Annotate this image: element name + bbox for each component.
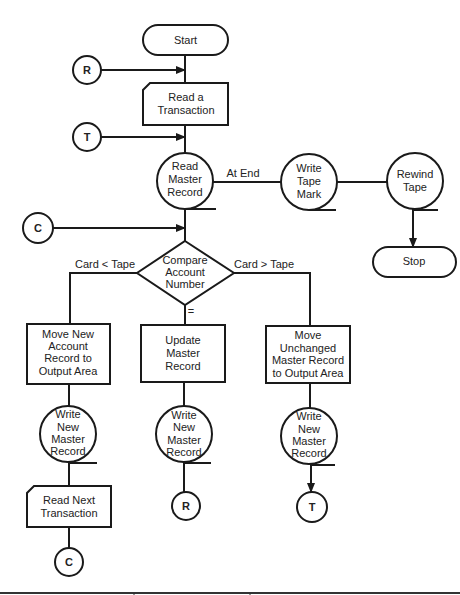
read-next-label: Read Next (43, 494, 95, 506)
compare-label: Number (165, 278, 204, 290)
start-label: Start (174, 34, 197, 46)
write-new-label: Write (55, 408, 80, 420)
write-new-label: Master (292, 435, 326, 447)
write-tape-mark-label: Write (296, 162, 321, 174)
write-new-label: New (298, 423, 320, 435)
move-new-label: Account (48, 340, 88, 352)
card-lt-tape-label: Card < Tape (75, 258, 135, 270)
update-master-label: Record (165, 360, 200, 372)
write-new-label: Record (166, 446, 201, 458)
equal-label: = (188, 305, 194, 317)
read-master-label: Read (172, 160, 198, 172)
at-end-label: At End (226, 167, 259, 179)
move-unchanged-label: to Output Area (273, 367, 345, 379)
rewind-tape-label: Rewind (397, 168, 434, 180)
compare-label: Account (165, 266, 205, 278)
move-new-label: Move New (42, 328, 94, 340)
rewind-tape-label: Tape (403, 181, 427, 193)
read-next-label: Transaction (40, 507, 97, 519)
read-transaction-label: Transaction (157, 104, 214, 116)
read-master-label: Record (167, 186, 202, 198)
update-master-label: Master (166, 347, 200, 359)
write-new-label: New (57, 421, 79, 433)
connector-t-label: T (309, 501, 316, 513)
move-unchanged-label: Unchanged (280, 342, 336, 354)
write-new-label: Record (50, 445, 85, 457)
compare-label: Compare (162, 254, 207, 266)
flow-line-card-lt-tape (70, 273, 137, 323)
write-new-label: Write (296, 410, 321, 422)
connector-c-label: C (34, 222, 42, 234)
move-unchanged-label: Master Record (272, 354, 344, 366)
read-transaction-label: Read a (168, 91, 204, 103)
flowchart: Start R T C Read a Transaction Read Mast… (0, 0, 460, 595)
connector-r-label: R (83, 64, 91, 76)
write-new-label: New (173, 421, 195, 433)
write-new-label: Write (171, 409, 196, 421)
flow-line-card-gt-tape (234, 273, 310, 326)
stop-label: Stop (403, 255, 426, 267)
write-new-label: Master (51, 433, 85, 445)
card-gt-tape-label: Card > Tape (234, 258, 294, 270)
write-tape-mark-label: Tape (297, 175, 321, 187)
connector-c-label: C (65, 556, 73, 568)
write-new-label: Master (167, 434, 201, 446)
read-master-label: Master (168, 173, 202, 185)
update-master-label: Update (165, 334, 200, 346)
write-new-label: Record (291, 447, 326, 459)
connector-r-label: R (182, 500, 190, 512)
connector-t-label: T (84, 131, 91, 143)
write-tape-mark-label: Mark (297, 188, 322, 200)
move-unchanged-label: Move (295, 329, 322, 341)
move-new-label: Output Area (39, 365, 99, 377)
move-new-label: Record to (44, 352, 92, 364)
